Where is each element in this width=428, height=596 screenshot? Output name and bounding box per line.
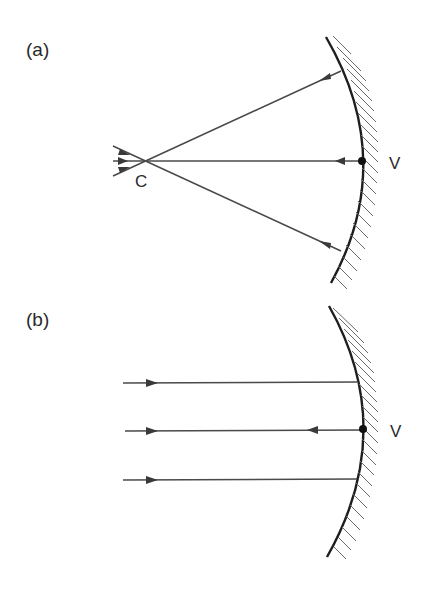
arrowhead-icon (335, 157, 345, 165)
panel-a-label: (a) (26, 39, 49, 60)
ray-upper-b (123, 382, 357, 383)
arrowhead-icon (118, 167, 130, 173)
rays-b (123, 379, 363, 484)
arrowhead-icon (118, 157, 128, 165)
panel-b-label: (b) (26, 309, 49, 330)
rays-a (113, 71, 362, 251)
vertex-point-b (359, 425, 367, 433)
arrowhead-icon (319, 73, 331, 81)
panel-a: (a) (26, 36, 401, 289)
arrowhead-icon (118, 149, 130, 155)
arrowhead-icon (146, 379, 158, 387)
vertex-label-a: V (389, 154, 401, 173)
concave-mirror-diagram: (a) (0, 0, 428, 596)
ray-lower-b (123, 479, 357, 480)
vertex-point-a (358, 157, 366, 165)
center-of-curvature-label: C (135, 172, 147, 191)
arrowhead-icon (146, 427, 158, 435)
mirror-hatching-b (333, 308, 378, 559)
arrowhead-icon (307, 426, 318, 434)
ray-axial-b (125, 430, 363, 431)
arrowhead-icon (146, 476, 158, 484)
vertex-label-b: V (390, 422, 402, 441)
panel-b: (b) (26, 306, 402, 559)
arrowhead-icon (319, 241, 331, 249)
